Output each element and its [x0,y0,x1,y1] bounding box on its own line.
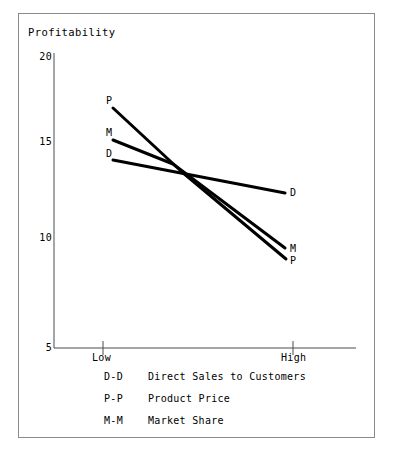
series-endpoint-label-m-end: M [290,244,296,254]
legend-label-market-share: Market Share [148,415,224,426]
legend-key-dd: D-D [104,371,148,382]
y-axis-title: Profitability [28,27,115,38]
legend-label-product-price: Product Price [148,393,230,404]
legend-item-market-share: M-M Market Share [104,415,306,426]
x-axis-tick-label-low: Low [92,353,111,363]
chart-screenshot: Profitability 20 15 10 5 Low High P M D … [0,0,396,461]
y-axis-tick-label-20: 20 [30,52,52,62]
x-axis-tick-label-high: High [281,353,306,363]
series-endpoint-label-d-end: D [290,188,296,198]
legend-item-direct-sales: D-D Direct Sales to Customers [104,371,306,382]
series-endpoint-label-d-start: D [106,149,112,159]
legend-key-mm: M-M [104,415,148,426]
series-line-market-share [113,140,285,248]
y-axis-tick-label-15: 15 [30,137,52,147]
legend-item-product-price: P-P Product Price [104,393,306,404]
y-axis-tick-label-10: 10 [30,233,52,243]
y-axis-tick-label-5: 5 [30,343,52,353]
legend-key-pp: P-P [104,393,148,404]
series-endpoint-label-p-end: P [290,256,296,266]
series-endpoint-label-p-start: P [106,96,112,106]
legend-label-direct-sales: Direct Sales to Customers [148,371,306,382]
series-endpoint-label-m-start: M [106,128,112,138]
chart-legend: D-D Direct Sales to Customers P-P Produc… [104,371,306,437]
